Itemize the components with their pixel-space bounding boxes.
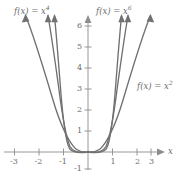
axes-group — [4, 15, 165, 170]
x-tick-label-3: 3 — [149, 158, 154, 166]
curve-label-x-squared-text: f(x) = x — [137, 81, 169, 91]
x-tick-label--2: -2 — [35, 158, 43, 166]
y-tick-label-6: 6 — [77, 22, 82, 30]
curve-label-x-squared-exponent: 2 — [169, 80, 173, 86]
curve-x-fourth-right — [88, 16, 128, 152]
curve-label-x-sixth-text: f(x) = x — [96, 6, 128, 16]
x-tick-label-1: 1 — [111, 158, 116, 166]
y-tick-label--1: -1 — [74, 165, 82, 173]
y-tick-label-1: 1 — [77, 127, 82, 135]
y-axis-arrowhead — [85, 15, 92, 23]
curve-label-x-fourth: f(x) = x4 — [14, 7, 50, 16]
y-tick-label-4: 4 — [77, 64, 82, 72]
arrowhead-x-squared-right — [147, 14, 155, 23]
curve-x-sixth-right — [88, 16, 122, 153]
curve-label-x-sixth-exponent: 6 — [128, 5, 132, 11]
x-tick-label--1: -1 — [59, 158, 67, 166]
y-tick-label-5: 5 — [77, 43, 82, 51]
x-tick-label--3: -3 — [10, 158, 18, 166]
x-axis-label: x — [168, 147, 173, 156]
x-tick-label-2: 2 — [135, 158, 140, 166]
arrowhead-x-sixth-left — [51, 14, 58, 22]
curve-label-x-fourth-exponent: 4 — [46, 5, 50, 11]
y-tick-label-2: 2 — [77, 106, 82, 114]
curve-x-sixth-left — [55, 16, 89, 153]
curve-label-x-squared: f(x) = x2 — [137, 82, 173, 91]
curve-label-x-sixth: f(x) = x6 — [96, 7, 132, 16]
x-axis-arrowhead — [157, 149, 165, 156]
y-tick-label-3: 3 — [77, 85, 82, 93]
function-graph-figure: -3 -2 -1 1 2 3 6 5 4 3 2 1 -1 x f(x) = x… — [0, 0, 178, 178]
curve-label-x-fourth-text: f(x) = x — [14, 6, 46, 16]
